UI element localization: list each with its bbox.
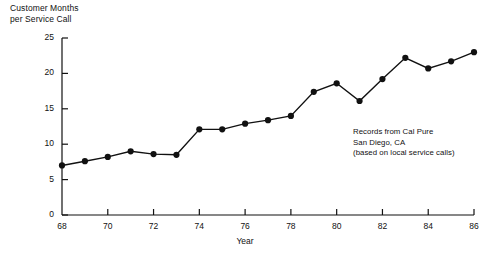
data-point <box>288 113 294 119</box>
data-point <box>242 121 248 127</box>
data-point <box>219 126 225 132</box>
x-tick-label: 86 <box>462 221 486 231</box>
data-point <box>196 126 202 132</box>
data-point <box>150 151 156 157</box>
data-point <box>448 58 454 64</box>
data-point <box>334 80 340 86</box>
data-point <box>379 76 385 82</box>
x-tick-label: 78 <box>279 221 303 231</box>
x-tick-label: 84 <box>416 221 440 231</box>
data-point <box>82 158 88 164</box>
y-tick-label: 0 <box>32 209 54 219</box>
y-tick-label: 10 <box>32 138 54 148</box>
chart-figure: Customer Months per Service Call 0510152… <box>0 0 492 255</box>
data-point <box>105 154 111 160</box>
data-point <box>311 89 317 95</box>
x-tick-label: 80 <box>325 221 349 231</box>
data-point <box>425 65 431 71</box>
y-tick-label: 15 <box>32 103 54 113</box>
x-tick-label: 68 <box>50 221 74 231</box>
x-tick-label: 76 <box>233 221 257 231</box>
data-point <box>128 148 134 154</box>
y-tick-label: 25 <box>32 32 54 42</box>
data-point <box>265 117 271 123</box>
x-tick-label: 74 <box>187 221 211 231</box>
x-axis-title: Year <box>215 236 275 246</box>
x-tick-label: 82 <box>370 221 394 231</box>
y-tick-label: 5 <box>32 174 54 184</box>
data-point <box>59 162 65 168</box>
data-point <box>402 55 408 61</box>
data-point <box>356 98 362 104</box>
x-tick-label: 70 <box>96 221 120 231</box>
data-point <box>173 152 179 158</box>
data-point <box>471 49 477 55</box>
y-tick-label: 20 <box>32 67 54 77</box>
x-tick-label: 72 <box>142 221 166 231</box>
chart-annotation: Records from Cal Pure San Diego, CA (bas… <box>353 127 455 159</box>
